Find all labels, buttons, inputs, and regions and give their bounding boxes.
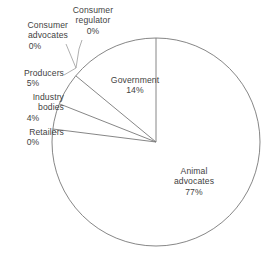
pie-chart: Consumer advocates 0% Consumer regulator… [0,0,279,266]
slice-label-value: 4% [2,113,64,123]
slice-label-value: 5% [2,78,64,88]
slice-label-line: Consumer [2,20,68,30]
slice-label-line: Consumer [64,5,122,15]
slice-label-line: Animal [159,166,229,176]
slice-label-line: Government [100,75,170,85]
slice-label-government: Government 14% [100,75,170,96]
slice-label-line: Producers [2,68,64,78]
slice-label-consumer-advocates: Consumer advocates 0% [2,20,68,51]
slice-label-line: Industry [2,92,64,102]
leader-line-producers [64,68,76,75]
slice-label-retailers: Retailers 0% [2,127,64,148]
slice-label-value: 0% [2,137,64,147]
slice-label-industry-bodies: Industry bodies 4% [2,92,64,123]
slice-label-value: 0% [2,41,68,51]
slice-label-line: advocates [159,176,229,186]
slice-label-line: bodies [2,102,64,112]
slice-label-animal-advocates: Animal advocates 77% [159,166,229,197]
slice-label-value: 0% [64,26,122,36]
slice-label-value: 77% [159,187,229,197]
slice-label-line: advocates [2,30,68,40]
slice-label-consumer-regulator: Consumer regulator 0% [64,5,122,36]
leader-line-consumer-regulator [76,40,82,68]
slice-label-producers: Producers 5% [2,68,64,89]
slice-label-line: regulator [64,15,122,25]
slice-label-value: 14% [100,85,170,95]
slice-label-line: Retailers [2,127,64,137]
